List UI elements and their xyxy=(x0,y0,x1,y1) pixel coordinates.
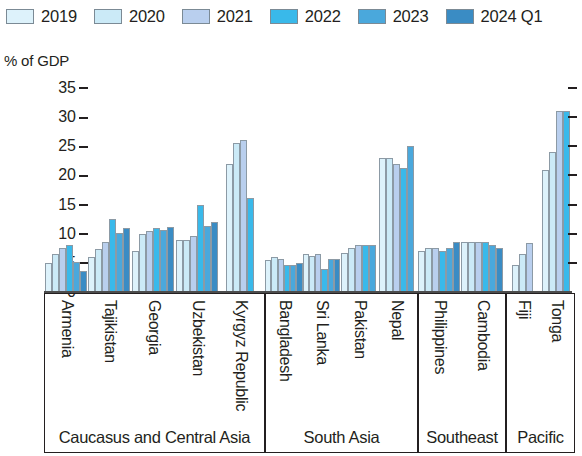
y-axis-title: % of GDP xyxy=(4,52,69,69)
bar-nepal-2019 xyxy=(379,158,386,292)
country-group-georgia xyxy=(131,88,175,292)
bar-nepal-2021 xyxy=(393,164,400,292)
bar-uzbekistan-2020 xyxy=(183,240,190,292)
bar-uzbekistan-2021 xyxy=(190,236,197,292)
legend-item-2024-q1[interactable]: 2024 Q1 xyxy=(446,7,543,26)
country-group-cambodia xyxy=(461,88,504,292)
legend-item-2023[interactable]: 2023 xyxy=(358,7,429,26)
legend-item-2021[interactable]: 2021 xyxy=(182,7,253,26)
legend-item-2020[interactable]: 2020 xyxy=(94,7,165,26)
country-label-tajikistan: Tajikistan xyxy=(101,300,119,363)
country-label-fiji: Fiji xyxy=(515,300,533,319)
bar-uzbekistan-2019 xyxy=(176,240,183,292)
country-label-bangladesh: Bangladesh xyxy=(276,300,294,382)
bar-armenia-2019 xyxy=(45,263,52,292)
legend-label: 2020 xyxy=(129,7,165,26)
bar-fiji-2021 xyxy=(526,243,533,292)
legend-item-2019[interactable]: 2019 xyxy=(6,7,77,26)
bar-cambodia-2024Q1 xyxy=(496,248,503,292)
legend-label: 2024 Q1 xyxy=(481,7,543,26)
bar-philippines-2024Q1 xyxy=(453,242,460,292)
country-group-philippines xyxy=(418,88,461,292)
bar-georgia-2023 xyxy=(160,230,167,292)
country-group-armenia xyxy=(44,88,88,292)
right-axis-tick-mark-10 xyxy=(568,233,577,235)
right-axis-tick-mark-5 xyxy=(568,262,577,264)
bar-philippines-2020 xyxy=(425,248,432,292)
right-axis-ticks xyxy=(568,88,582,292)
bar-tajikistan-2024Q1 xyxy=(123,228,130,292)
region-bars-pacific xyxy=(506,88,572,292)
right-axis-tick-mark-35 xyxy=(568,87,577,89)
bar-nepal-2020 xyxy=(386,158,393,292)
bar-armenia-2021 xyxy=(59,248,66,292)
bar-philippines-2023 xyxy=(446,248,453,292)
legend-label: 2021 xyxy=(217,7,253,26)
country-label-georgia: Georgia xyxy=(145,300,163,355)
bar-pakistan-2020 xyxy=(348,248,355,292)
bar-armenia-2024Q1 xyxy=(80,271,87,292)
bar-pakistan-2022 xyxy=(362,245,369,292)
region-bars-south-asia xyxy=(265,88,415,292)
region-bars-caucasus-and-central-asia xyxy=(44,88,262,292)
bar-tajikistan-2019 xyxy=(88,257,95,292)
legend-swatch-icon xyxy=(270,9,298,24)
bar-philippines-2019 xyxy=(418,251,425,292)
country-label-pakistan: Pakistan xyxy=(351,300,369,359)
region-label-box-southeast: SoutheastPhilippinesCambodia xyxy=(418,293,506,453)
bar-uzbekistan-2023 xyxy=(204,226,211,292)
region-label-box-south-asia: South AsiaBangladeshSri LankaPakistanNep… xyxy=(265,293,418,453)
region-label: Pacific xyxy=(507,428,574,447)
region-label: Caucasus and Central Asia xyxy=(45,428,264,447)
bar-pakistan-2019 xyxy=(341,253,348,292)
bar-cambodia-2021 xyxy=(475,242,482,292)
bar-tajikistan-2020 xyxy=(95,249,102,292)
country-label-philippines: Philippines xyxy=(431,300,449,374)
remittance-inflows-bar-chart: 201920202021202220232024 Q1 % of GDP 051… xyxy=(0,0,582,456)
category-label-panel: Caucasus and Central AsiaArmeniaTajikist… xyxy=(44,293,572,453)
bar-uzbekistan-2024Q1 xyxy=(211,222,218,292)
country-group-bangladesh xyxy=(265,88,303,292)
region-bars-southeast xyxy=(418,88,503,292)
legend-swatch-icon xyxy=(358,9,386,24)
bar-georgia-2021 xyxy=(146,231,153,292)
bar-armenia-2022 xyxy=(66,245,73,292)
country-group-tajikistan xyxy=(88,88,132,292)
plot-area: 05101520253035 xyxy=(44,88,572,292)
legend-swatch-icon xyxy=(182,9,210,24)
country-label-uzbekistan: Uzbekistan xyxy=(189,300,207,376)
region-label-box-caucasus-and-central-asia: Caucasus and Central AsiaArmeniaTajikist… xyxy=(44,293,265,453)
bar-kyrgyz-republic-2021 xyxy=(240,140,247,292)
country-group-fiji xyxy=(506,88,539,292)
country-label-tonga: Tonga xyxy=(548,300,566,342)
bar-philippines-2022 xyxy=(439,251,446,292)
region-label: Southeast xyxy=(419,428,505,447)
right-axis-tick-mark-25 xyxy=(568,145,577,147)
bar-cambodia-2020 xyxy=(468,242,475,292)
bar-kyrgyz-republic-2019 xyxy=(226,164,233,292)
bar-fiji-2020 xyxy=(519,254,526,292)
bar-fiji-2019 xyxy=(512,265,519,292)
country-label-cambodia: Cambodia xyxy=(474,300,492,371)
bar-armenia-2020 xyxy=(52,254,59,292)
bar-tajikistan-2022 xyxy=(109,219,116,292)
bar-tajikistan-2021 xyxy=(102,242,109,292)
region-label: South Asia xyxy=(266,428,417,447)
bar-pakistan-2023 xyxy=(369,245,376,292)
bar-armenia-2023 xyxy=(73,262,80,292)
bar-philippines-2021 xyxy=(432,248,439,292)
bar-nepal-2023 xyxy=(407,146,414,292)
bar-georgia-2022 xyxy=(153,228,160,292)
bar-georgia-2019 xyxy=(132,251,139,292)
legend-item-2022[interactable]: 2022 xyxy=(270,7,341,26)
bar-uzbekistan-2022 xyxy=(197,205,204,292)
legend-label: 2023 xyxy=(393,7,429,26)
country-label-sri-lanka: Sri Lanka xyxy=(313,300,331,365)
bar-tonga-2019 xyxy=(542,170,549,292)
bar-nepal-2022 xyxy=(400,168,407,292)
bar-tonga-2020 xyxy=(549,152,556,292)
chart-legend: 201920202021202220232024 Q1 xyxy=(6,4,582,28)
right-axis-tick-mark-30 xyxy=(568,116,577,118)
right-axis-tick-mark-20 xyxy=(568,174,577,176)
bar-kyrgyz-republic-2022 xyxy=(247,198,254,292)
